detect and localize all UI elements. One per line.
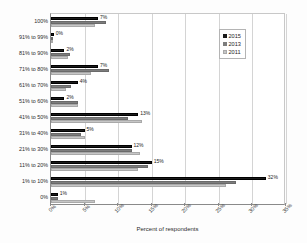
gridline [152,14,153,204]
bar-value-label: 12% [134,143,144,148]
bar-value-label: 5% [87,127,94,132]
chart-legend: 201520132011 [219,29,246,59]
y-axis-category-label: 41% to 50% [0,114,48,120]
scan-artifact [6,2,18,9]
legend-item-2011: 2011 [223,48,241,56]
y-axis-category-label: 51% to 60% [0,98,48,104]
legend-swatch-icon [223,50,227,54]
legend-label: 2015 [229,33,241,39]
y-axis-category-label: 100% [0,18,48,24]
bar-value-label: 7% [100,63,107,68]
bar-2011-6 [51,104,78,107]
legend-label: 2013 [229,41,241,47]
bar-value-label: 13% [140,111,150,116]
legend-label: 2011 [229,49,241,55]
bar-value-label: 1% [60,191,67,196]
gridline [252,14,253,204]
bar-chart: 100%91% to 99%81% to 90%71% to 80%61% to… [0,0,307,243]
y-axis-category-label: 21% to 30% [0,146,48,152]
y-axis-category-label: 11% to 20% [0,162,48,168]
bar-2011-7 [51,120,142,123]
bar-2011-11 [51,184,226,187]
bar-value-label: 0% [56,31,63,36]
y-axis-labels: 100%91% to 99%81% to 90%71% to 80%61% to… [0,13,48,205]
bar-2011-10 [51,168,138,171]
legend-item-2013: 2013 [223,40,241,48]
bar-2011-3 [51,56,68,59]
y-axis-category-label: 1% to 10% [0,178,48,184]
legend-swatch-icon [223,34,227,38]
bar-2011-12 [51,200,95,203]
bar-value-label: 2% [66,47,73,52]
bar-value-label: 2% [66,95,73,100]
bar-value-label: 7% [100,15,107,20]
legend-swatch-icon [223,42,227,46]
gridline [85,14,86,204]
bar-2011-4 [51,72,91,75]
gridline [118,14,119,204]
legend-item-2015: 2015 [223,32,241,40]
bar-value-label: 32% [268,175,278,180]
bar-2011-9 [51,152,140,155]
bar-value-label: 4% [80,79,87,84]
plot-area: 7%0%2%7%4%2%13%5%12%15%32%1% [50,13,285,205]
y-axis-category-label: 81% to 90% [0,50,48,56]
gridline [185,14,186,204]
bar-2011-5 [51,88,66,91]
bar-2011-2 [51,40,53,43]
bar-2011-1 [51,24,95,27]
gridline [286,14,287,204]
y-axis-category-label: 31% to 40% [0,130,48,136]
y-axis-category-label: 91% to 99% [0,34,48,40]
bar-2011-8 [51,136,85,139]
x-axis-title: Percent of respondents [50,226,285,232]
y-axis-category-label: 0% [0,194,48,200]
y-axis-category-label: 61% to 70% [0,82,48,88]
y-axis-category-label: 71% to 80% [0,66,48,72]
bar-value-label: 15% [154,159,164,164]
x-axis-ticks: 0%5%10%15%20%25%30%35% [50,206,285,220]
